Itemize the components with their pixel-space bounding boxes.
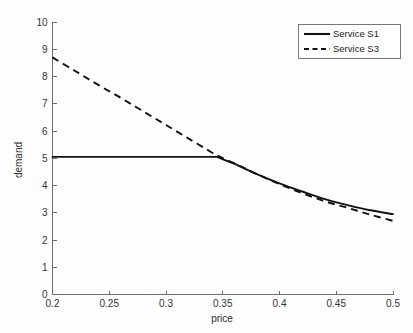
y-tick-label: 5 [42,153,48,164]
y-tick-label: 2 [42,235,48,246]
legend-label-service-s1: Service S1 [333,28,379,39]
series-line-service-s3 [53,57,394,221]
legend-label-service-s3: Service S3 [333,43,379,54]
legend: Service S1 Service S3 [299,25,401,59]
y-tick-label: 10 [36,17,48,28]
y-tick-label: 6 [42,126,48,137]
figure-canvas: 012345678910 0.20.250.30.350.40.450.5 pr… [0,0,413,333]
y-tick-label: 9 [42,44,48,55]
x-axis-ticks: 0.20.250.30.350.40.450.5 [46,291,401,309]
x-tick-label: 0.45 [327,298,347,309]
x-axis-title: price [211,313,233,324]
y-tick-label: 7 [42,98,48,109]
y-tick-label: 1 [42,262,48,273]
x-tick-label: 0.35 [213,298,233,309]
x-tick-label: 0.25 [100,298,120,309]
y-axis-title: demand [13,142,24,178]
y-tick-label: 4 [42,180,48,191]
y-tick-label: 3 [42,207,48,218]
x-tick-label: 0.3 [159,298,173,309]
y-tick-label: 8 [42,71,48,82]
demand-price-line-chart: 012345678910 0.20.250.30.350.40.450.5 pr… [0,0,413,333]
x-tick-label: 0.2 [46,298,60,309]
series-group [53,57,394,221]
x-tick-label: 0.4 [273,298,287,309]
x-tick-label: 0.5 [386,298,400,309]
